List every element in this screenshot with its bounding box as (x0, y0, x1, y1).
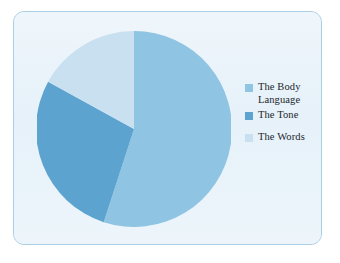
legend-item-the-tone[interactable]: The Tone (245, 109, 322, 122)
pie-slices (37, 31, 231, 227)
legend-swatch-the-body-language (245, 84, 253, 92)
chart-legend: The Body Language The Tone The Words (245, 81, 322, 146)
legend-label-the-words: The Words (258, 131, 305, 144)
pie-chart (37, 31, 231, 227)
legend-swatch-the-tone (245, 112, 253, 120)
legend-label-the-tone: The Tone (258, 109, 298, 122)
plot-area: The Body Language The Tone The Words (14, 12, 322, 245)
legend-item-the-body-language[interactable]: The Body Language (245, 81, 322, 106)
chart-card: The Body Language The Tone The Words (13, 11, 322, 245)
legend-swatch-the-words (245, 134, 253, 142)
legend-item-the-words[interactable]: The Words (245, 131, 322, 144)
legend-label-the-body-language: The Body Language (258, 81, 301, 106)
